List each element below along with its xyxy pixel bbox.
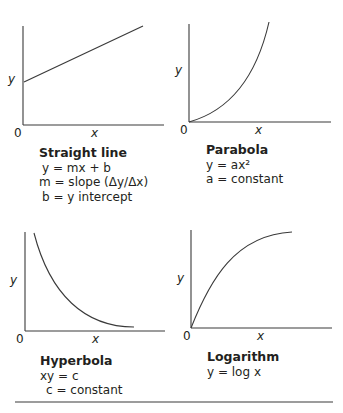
- logarithm-caption: Logarithm y = log x: [207, 350, 279, 379]
- caption-title: Straight line: [39, 146, 148, 161]
- straight-line-caption: Straight line y = mx + b m = slope (Δy/Δ…: [39, 146, 148, 204]
- logarithm-curve: [191, 232, 292, 328]
- logarithm-plot: [191, 230, 332, 328]
- origin-label: 0: [16, 332, 24, 346]
- hyperbola-caption: Hyperbola xy = c c = constant: [40, 354, 122, 398]
- caption-title: Parabola: [206, 143, 283, 158]
- origin-label: 0: [180, 123, 188, 137]
- caption-title: Logarithm: [207, 350, 279, 365]
- parabola-plot: [189, 22, 331, 122]
- parabola-curve: [189, 22, 269, 122]
- y-axis-label: y: [8, 72, 15, 86]
- definition: b = y intercept: [39, 190, 148, 205]
- origin-label: 0: [14, 126, 22, 140]
- x-axis-label: x: [257, 329, 264, 343]
- x-axis-label: x: [91, 126, 98, 140]
- origin-label: 0: [183, 329, 191, 343]
- equation: y = log x: [207, 365, 279, 380]
- x-axis-label: x: [92, 332, 99, 346]
- equation: y = ax²: [206, 158, 283, 173]
- definition: a = constant: [206, 172, 283, 187]
- equation: y = mx + b: [39, 161, 148, 176]
- x-axis-label: x: [255, 123, 262, 137]
- y-axis-label: y: [177, 271, 184, 285]
- y-axis-label: y: [175, 63, 182, 77]
- hyperbola-plot: [25, 232, 165, 331]
- straight-line-curve: [24, 26, 143, 82]
- parabola-caption: Parabola y = ax² a = constant: [206, 143, 283, 187]
- caption-title: Hyperbola: [40, 354, 122, 369]
- equation: xy = c: [40, 369, 122, 384]
- straight-line-plot: [23, 26, 164, 125]
- hyperbola-curve: [34, 233, 134, 327]
- function-plots: [0, 0, 343, 413]
- definition: m = slope (Δy/Δx): [39, 175, 148, 190]
- definition: c = constant: [40, 383, 122, 398]
- y-axis-label: y: [10, 273, 17, 287]
